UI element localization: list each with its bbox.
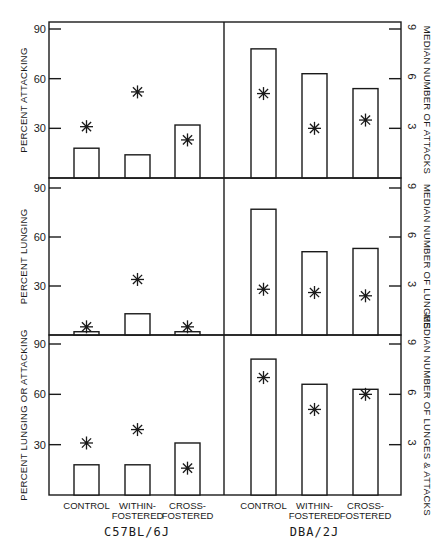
- panel-2: 306090369PERCENT LUNGINGMEDIAN NUMBER OF…: [18, 178, 433, 335]
- bar: [353, 89, 378, 178]
- right-axis-title: MEDIAN NUMBER OF LUNGES & ATTACKS: [422, 314, 433, 516]
- panel-frame: [49, 22, 401, 178]
- category-label: FOSTERED: [289, 510, 341, 521]
- right-axis-title: MEDIAN NUMBER OF ATTACKS: [422, 26, 433, 174]
- median-asterisk-icon: [181, 133, 194, 146]
- median-asterisk-icon: [80, 120, 93, 133]
- right-tick-label: 3: [406, 123, 418, 129]
- median-asterisk-icon: [359, 289, 372, 302]
- left-tick-label: 60: [34, 388, 46, 400]
- right-tick-label: 9: [406, 339, 418, 345]
- panel-3: 306090369PERCENT LUNGING OR ATTACKINGMED…: [18, 314, 433, 516]
- bar: [302, 384, 327, 495]
- median-asterisk-icon: [308, 286, 321, 299]
- category-label: FOSTERED: [162, 510, 214, 521]
- median-asterisk-icon: [308, 122, 321, 135]
- left-tick-label: 60: [34, 231, 46, 243]
- bar: [251, 209, 276, 335]
- category-label: FOSTERED: [112, 510, 164, 521]
- category-label: FOSTERED: [340, 510, 392, 521]
- left-tick-label: 30: [34, 122, 46, 134]
- left-tick-label: 30: [34, 280, 46, 292]
- figure-chart: 306090369PERCENT ATTACKINGMEDIAN NUMBER …: [0, 0, 448, 549]
- group-label: C57BL/6J: [104, 525, 170, 539]
- median-asterisk-icon: [131, 273, 144, 286]
- median-asterisk-icon: [131, 85, 144, 98]
- bar: [74, 148, 99, 178]
- median-asterisk-icon: [80, 436, 93, 449]
- left-tick-label: 30: [34, 439, 46, 451]
- right-axis-title: MEDIAN NUMBER OF LUNGES: [422, 184, 433, 329]
- bar: [125, 314, 150, 335]
- median-asterisk-icon: [131, 423, 144, 436]
- right-tick-label: 6: [406, 74, 418, 80]
- bar: [74, 465, 99, 495]
- group-label: DBA/2J: [290, 525, 339, 539]
- left-axis-title: PERCENT LUNGING OR ATTACKING: [18, 329, 29, 501]
- right-tick-label: 3: [406, 281, 418, 287]
- median-asterisk-icon: [181, 320, 194, 333]
- panel-1: 306090369PERCENT ATTACKINGMEDIAN NUMBER …: [18, 22, 433, 178]
- left-axis-title: PERCENT LUNGING: [18, 209, 29, 305]
- left-tick-label: 90: [34, 338, 46, 350]
- median-asterisk-icon: [308, 403, 321, 416]
- median-asterisk-icon: [359, 388, 372, 401]
- median-asterisk-icon: [80, 320, 93, 333]
- right-tick-label: 3: [406, 440, 418, 446]
- bar: [175, 125, 200, 178]
- median-asterisk-icon: [359, 114, 372, 127]
- bar: [125, 465, 150, 495]
- category-label: CONTROL: [63, 500, 109, 511]
- right-tick-label: 9: [406, 183, 418, 189]
- left-tick-label: 60: [34, 73, 46, 85]
- left-tick-label: 90: [34, 182, 46, 194]
- bar: [251, 49, 276, 178]
- left-tick-label: 90: [34, 23, 46, 35]
- right-tick-label: 6: [406, 389, 418, 395]
- left-axis-title: PERCENT ATTACKING: [18, 47, 29, 152]
- panel-frame: [49, 178, 401, 335]
- category-label: CONTROL: [240, 500, 286, 511]
- median-asterisk-icon: [257, 283, 270, 296]
- median-asterisk-icon: [181, 462, 194, 475]
- right-tick-label: 6: [406, 232, 418, 238]
- bar: [125, 155, 150, 178]
- median-asterisk-icon: [257, 87, 270, 100]
- panel-frame: [49, 335, 401, 495]
- median-asterisk-icon: [257, 371, 270, 384]
- right-tick-label: 9: [406, 24, 418, 30]
- bar: [353, 389, 378, 495]
